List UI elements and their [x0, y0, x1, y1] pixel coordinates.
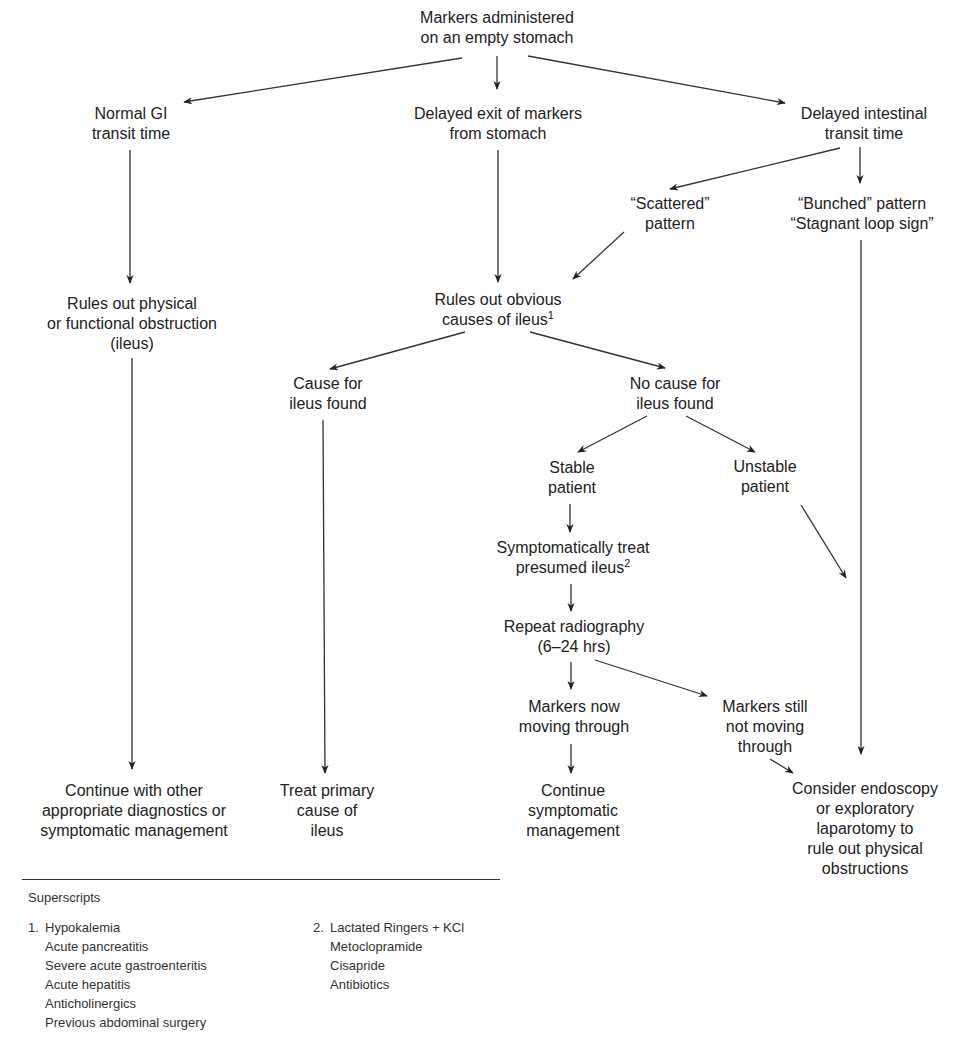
node-cause-found: Cause for ileus found	[289, 374, 366, 414]
note-item: Cisapride	[313, 956, 464, 975]
edge-repeat-not-moving	[595, 660, 707, 696]
edge-start-delayed-intestinal	[528, 56, 785, 103]
edge-not-moving-consider	[770, 759, 793, 773]
node-treat-primary: Treat primary cause of ileus	[280, 781, 375, 841]
notes-group-2: 2. Lactated Ringers + KCl Metoclopramide…	[313, 918, 464, 994]
note-item: Antibiotics	[313, 975, 464, 994]
node-rules-out-obvious: Rules out obvious causes of ileus1	[434, 290, 561, 330]
node-symptomatic-treat: Symptomatically treat presumed ileus2	[497, 538, 650, 578]
edge-no-cause-stable	[578, 416, 647, 452]
note-item: Previous abdominal surgery	[28, 1013, 207, 1032]
notes-title: Superscripts	[28, 890, 100, 905]
note-item: Lactated Ringers + KCl	[313, 918, 464, 937]
notes-divider	[22, 879, 500, 880]
node-start: Markers administered on an empty stomach	[420, 8, 574, 48]
node-continue-symptomatic: Continue symptomatic management	[526, 781, 619, 841]
node-scattered: “Scattered” pattern	[630, 194, 709, 234]
node-continue-other: Continue with other appropriate diagnost…	[40, 781, 228, 841]
superscript-1: 1	[548, 309, 554, 321]
note-item: Anticholinergics	[28, 994, 207, 1013]
edge-rules-obvious-cause-found	[330, 332, 465, 369]
edge-unstable-consider	[801, 505, 846, 578]
node-delayed-exit: Delayed exit of markers from stomach	[414, 104, 582, 144]
node-unstable: Unstable patient	[733, 457, 796, 497]
note-item: Metoclopramide	[313, 937, 464, 956]
node-rules-out-physical: Rules out physical or functional obstruc…	[47, 294, 217, 354]
edge-rules-obvious-no-cause	[530, 332, 665, 368]
node-repeat-radiography: Repeat radiography (6–24 hrs)	[504, 617, 645, 657]
note-item: Severe acute gastroenteritis	[28, 956, 207, 975]
node-stable: Stable patient	[548, 458, 596, 498]
edge-delayed-intestinal-scattered	[670, 148, 840, 189]
notes-group-1: 1. Hypokalemia Acute pancreatitis Severe…	[28, 918, 207, 1032]
node-markers-moving: Markers now moving through	[519, 697, 629, 737]
node-no-cause: No cause for ileus found	[630, 374, 721, 414]
node-consider-endoscopy: Consider endoscopy or exploratory laparo…	[792, 779, 938, 879]
edge-no-cause-unstable	[686, 416, 755, 452]
note-item: Hypokalemia	[28, 918, 207, 937]
node-markers-not-moving: Markers still not moving through	[722, 697, 807, 757]
node-delayed-intestinal: Delayed intestinal transit time	[801, 104, 927, 144]
flowchart-connectors	[0, 0, 971, 1043]
node-normal-gi: Normal GI transit time	[92, 104, 170, 144]
edge-start-normal-gi	[184, 58, 462, 102]
node-bunched: “Bunched” pattern “Stagnant loop sign”	[790, 194, 933, 234]
superscript-2: 2	[624, 557, 630, 569]
note-item: Acute hepatitis	[28, 975, 207, 994]
edge-cause-found-treat-primary	[323, 420, 325, 773]
edge-scattered-rules-obvious	[573, 232, 624, 279]
note-item: Acute pancreatitis	[28, 937, 207, 956]
